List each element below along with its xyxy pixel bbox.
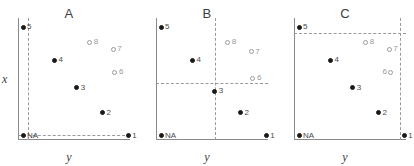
filled-circle-icon	[159, 133, 164, 138]
data-point-label: 8	[370, 38, 374, 46]
filled-circle-icon	[212, 89, 217, 94]
horizontal-guide-line	[156, 83, 268, 84]
data-point-label: 2	[245, 109, 249, 117]
data-point-label: 1	[408, 132, 412, 140]
filled-circle-icon	[376, 110, 381, 115]
data-point-label: 4	[58, 56, 62, 64]
data-point-label: 6	[257, 74, 261, 82]
plot-area: NA12345678	[294, 18, 406, 140]
data-point-label: 8	[94, 38, 98, 46]
horizontal-guide-line	[294, 33, 406, 34]
open-circle-icon	[225, 40, 230, 45]
open-circle-icon	[87, 40, 92, 45]
data-point-label: 7	[255, 48, 259, 56]
panel-c: CyNA12345678	[276, 0, 414, 166]
scatter-panel-figure: AxyNA12345678ByNA12345678CyNA12345678	[0, 0, 414, 166]
filled-circle-icon	[74, 85, 79, 90]
data-point-label: 6	[382, 68, 386, 76]
y-axis-line	[294, 18, 295, 140]
open-circle-icon	[111, 47, 116, 52]
data-point-label: 7	[117, 45, 121, 53]
open-circle-icon	[363, 40, 368, 45]
filled-circle-icon	[264, 133, 269, 138]
data-point-label: 3	[81, 84, 85, 92]
open-circle-icon	[112, 70, 117, 75]
filled-circle-icon	[159, 25, 164, 30]
data-point-label: NA	[27, 132, 38, 140]
data-point-label: 2	[107, 109, 111, 117]
open-circle-icon	[249, 49, 254, 54]
data-point-label: 8	[232, 38, 236, 46]
filled-circle-icon	[52, 58, 57, 63]
panel-a: AxyNA12345678	[0, 0, 138, 166]
vertical-guide-line	[28, 18, 29, 140]
data-point-label: 3	[357, 84, 361, 92]
vertical-guide-line	[215, 18, 216, 140]
filled-circle-icon	[21, 133, 26, 138]
data-point-label: NA	[303, 132, 314, 140]
panel-b: ByNA12345678	[138, 0, 276, 166]
filled-circle-icon	[297, 25, 302, 30]
y-axis-title: x	[2, 72, 7, 87]
filled-circle-icon	[190, 58, 195, 63]
data-point-label: 7	[393, 45, 397, 53]
vertical-guide-line	[400, 18, 401, 140]
y-axis-line	[18, 18, 19, 140]
filled-circle-icon	[21, 25, 26, 30]
data-point-label: 1	[132, 132, 136, 140]
filled-circle-icon	[328, 58, 333, 63]
data-point-label: 5	[165, 23, 169, 31]
x-axis-title: y	[276, 150, 414, 165]
plot-area: NA12345678	[156, 18, 268, 140]
filled-circle-icon	[297, 133, 302, 138]
filled-circle-icon	[100, 110, 105, 115]
filled-circle-icon	[126, 133, 131, 138]
data-point-label: 5	[27, 23, 31, 31]
open-circle-icon	[388, 70, 393, 75]
plot-area: NA12345678	[18, 18, 130, 140]
data-point-label: 3	[219, 87, 223, 95]
data-point-label: 1	[270, 132, 274, 140]
data-point-label: 6	[119, 68, 123, 76]
data-point-label: 4	[196, 56, 200, 64]
data-point-label: 5	[303, 23, 307, 31]
data-point-label: 2	[383, 109, 387, 117]
y-axis-line	[156, 18, 157, 140]
filled-circle-icon	[402, 133, 407, 138]
x-axis-title: y	[0, 150, 138, 165]
filled-circle-icon	[238, 110, 243, 115]
open-circle-icon	[387, 47, 392, 52]
x-axis-title: y	[138, 150, 276, 165]
data-point-label: NA	[165, 132, 176, 140]
open-circle-icon	[250, 76, 255, 81]
filled-circle-icon	[350, 85, 355, 90]
data-point-label: 4	[334, 56, 338, 64]
